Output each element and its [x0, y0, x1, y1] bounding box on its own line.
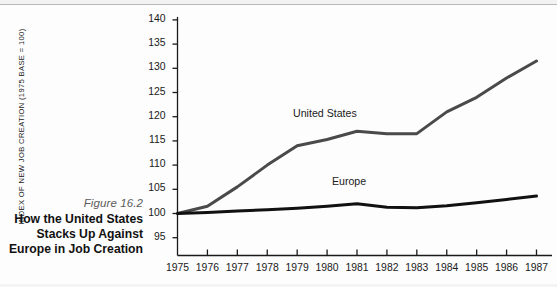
- x-axis-tick-label: 1980: [310, 262, 344, 273]
- series-line-europe: [178, 196, 537, 213]
- y-axis-tick-label: 120: [140, 110, 166, 121]
- x-axis-tick-label: 1979: [280, 262, 314, 273]
- figure-page: Figure 16.2 How the United States Stacks…: [0, 0, 557, 287]
- y-axis-tick-label: 125: [140, 86, 166, 97]
- x-axis-tick-label: 1983: [400, 262, 434, 273]
- y-axis-tick-label: 105: [140, 182, 166, 193]
- series-label-united-states: United States: [293, 107, 357, 119]
- x-axis-tick-label: 1977: [220, 262, 254, 273]
- x-axis-tick-label: 1987: [520, 262, 554, 273]
- y-axis-tick-label: 130: [140, 61, 166, 72]
- y-axis-tick-label: 115: [140, 134, 166, 145]
- plot-canvas: [0, 0, 557, 287]
- y-axis-tick-label: 140: [140, 13, 166, 24]
- x-axis-tick-label: 1982: [370, 262, 404, 273]
- x-axis-tick-label: 1984: [430, 262, 464, 273]
- x-axis-tick-label: 1975: [161, 262, 195, 273]
- line-chart: INDEX OF NEW JOB CREATION (1975 BASE = 1…: [0, 0, 557, 287]
- y-axis-tick-label: 100: [140, 207, 166, 218]
- series-line-united-states: [178, 61, 537, 213]
- y-axis-label: INDEX OF NEW JOB CREATION (1975 BASE = 1…: [17, 22, 26, 232]
- y-axis-tick-label: 110: [140, 158, 166, 169]
- x-axis-tick-label: 1976: [190, 262, 224, 273]
- x-axis-tick-label: 1981: [340, 262, 374, 273]
- x-axis-tick-label: 1986: [490, 262, 524, 273]
- series-label-europe: Europe: [332, 175, 366, 187]
- x-axis-tick-label: 1978: [250, 262, 284, 273]
- y-axis-tick-label: 95: [140, 231, 166, 242]
- x-axis-tick-label: 1985: [460, 262, 494, 273]
- y-axis-tick-label: 135: [140, 37, 166, 48]
